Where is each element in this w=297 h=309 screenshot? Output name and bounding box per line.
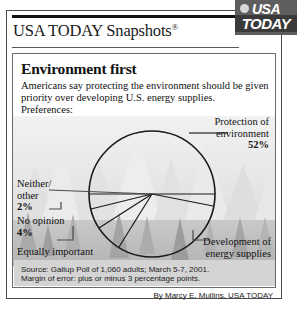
pie-label-protection-line1: Protection of [177, 116, 269, 128]
pie-divider-noopinion-equally [99, 194, 152, 228]
card-header: USA TODAY Snapshots® [12, 15, 239, 51]
pie-label-neither-value: 2% [17, 201, 33, 212]
source-line-1: Source: Gallup Poll of 1,060 adults; Mar… [21, 265, 209, 274]
header-rule-bottom [12, 47, 239, 48]
pie-label-protection-line2: environment [177, 128, 269, 140]
header-title-text: USA TODAY Snapshots [13, 21, 172, 40]
pie-label-protection: Protection of environment 52% [177, 116, 269, 151]
globe-icon [240, 4, 249, 13]
pie-label-neither-line2: other [17, 190, 51, 202]
pie-divider-equally-development [119, 194, 152, 247]
byline: By Marcy E. Mullins, USA TODAY [153, 291, 273, 300]
usa-today-snapshot-card: USA TODAY Snapshots® USA TODAY Environme… [6, 10, 282, 299]
pie-label-no-opinion: No opinion 4% [17, 215, 65, 238]
source-line-2: Margin of error: plus or minus 3 percent… [21, 274, 200, 283]
logo-line-today: TODAY [235, 15, 290, 32]
pie-label-development-line2: energy supplies [175, 248, 271, 260]
pie-divider-neither-noopinion [91, 194, 152, 209]
registered-mark: ® [172, 22, 179, 32]
source-note: Source: Gallup Poll of 1,060 adults; Mar… [14, 260, 276, 286]
page-title: USA TODAY Snapshots® [13, 21, 178, 41]
pie-label-protection-value: 52% [248, 139, 269, 150]
pie-label-equally-important-line1: Equally important [17, 246, 93, 258]
pie-label-neither: Neither/ other 2% [17, 178, 51, 213]
usa-today-logo: USA TODAY [235, 0, 290, 35]
pie-label-neither-line1: Neither/ [17, 178, 51, 190]
pie-label-no-opinion-value: 4% [17, 227, 33, 238]
pie-label-no-opinion-line1: No opinion [17, 215, 65, 227]
pie-label-development-line1: Development of [175, 236, 271, 248]
header-rule-top [12, 15, 239, 18]
chart-panel: Environment first Americans say protecti… [12, 53, 276, 288]
pie-divider-development-protection [152, 194, 213, 206]
